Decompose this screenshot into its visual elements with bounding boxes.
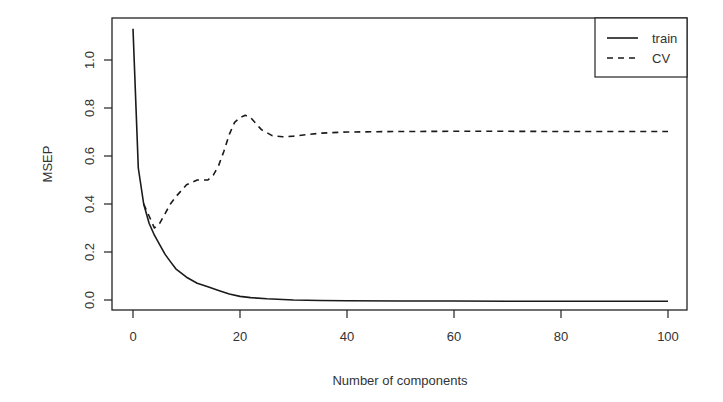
- legend: train CV: [595, 18, 687, 77]
- x-axis-title: Number of components: [332, 373, 468, 388]
- y-tick-label: 0.8: [82, 99, 97, 117]
- legend-label-train: train: [652, 31, 677, 46]
- x-tick-label: 60: [447, 329, 461, 344]
- y-tick-label: 0.2: [82, 243, 97, 261]
- x-tick-label: 0: [129, 329, 136, 344]
- y-tick-label: 0.6: [82, 147, 97, 165]
- series-layer: [133, 29, 668, 301]
- x-axis: [133, 310, 668, 318]
- msep-chart: 0.0 0.2 0.4 0.6 0.8 1.0 0 20 40 60 80 10…: [0, 0, 723, 402]
- y-tick-labels: 0.0 0.2 0.4 0.6 0.8 1.0: [82, 51, 97, 309]
- y-tick-label: 0.4: [82, 195, 97, 213]
- y-axis: [104, 60, 112, 300]
- y-tick-label: 1.0: [82, 51, 97, 69]
- series-line-train: [133, 29, 668, 301]
- y-tick-label: 0.0: [82, 291, 97, 309]
- legend-box: [595, 18, 687, 77]
- legend-label-cv: CV: [652, 51, 670, 66]
- x-tick-label: 20: [233, 329, 247, 344]
- y-axis-title: MSEP: [40, 146, 55, 183]
- x-tick-labels: 0 20 40 60 80 100: [129, 329, 678, 344]
- x-tick-label: 100: [657, 329, 679, 344]
- x-tick-label: 40: [340, 329, 354, 344]
- series-line-cv: [144, 115, 668, 228]
- x-tick-label: 80: [554, 329, 568, 344]
